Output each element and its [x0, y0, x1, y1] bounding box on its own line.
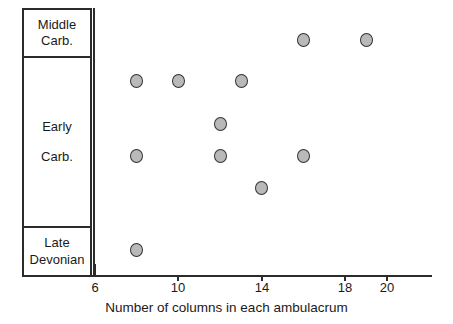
- data-point: [130, 74, 143, 88]
- data-point: [130, 149, 143, 163]
- data-point: [297, 149, 310, 163]
- data-point: [255, 181, 268, 195]
- data-point: [130, 243, 143, 257]
- x-axis-title: Number of columns in each ambulacrum: [0, 300, 453, 315]
- data-point: [172, 74, 185, 88]
- data-point: [297, 33, 310, 47]
- data-point: [360, 33, 373, 47]
- data-points-layer: [0, 0, 453, 324]
- data-point: [214, 117, 227, 131]
- data-point: [214, 149, 227, 163]
- data-point: [235, 74, 248, 88]
- scatter-chart: Middle Carb. Early Carb. Late Devonian 6…: [0, 0, 453, 324]
